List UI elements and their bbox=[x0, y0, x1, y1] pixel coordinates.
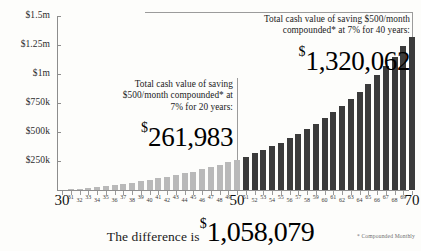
x-tick bbox=[132, 191, 133, 195]
x-tick bbox=[360, 191, 361, 195]
bar-age-58 bbox=[304, 129, 310, 190]
bar-age-48 bbox=[217, 165, 223, 190]
bar-age-46 bbox=[199, 169, 205, 190]
x-tick-label-47: 47 bbox=[208, 194, 214, 200]
difference-label: The difference is bbox=[107, 229, 200, 244]
x-tick-label-33: 33 bbox=[85, 194, 91, 200]
x-tick-label-40: 40 bbox=[147, 197, 153, 203]
bar-age-36 bbox=[112, 185, 118, 190]
bar-age-38 bbox=[129, 183, 135, 190]
bar-age-61 bbox=[330, 112, 336, 190]
bar-age-60 bbox=[322, 118, 328, 190]
callout-top-value: 1,320,062 bbox=[306, 46, 410, 76]
bar-age-49 bbox=[225, 162, 231, 190]
y-tick bbox=[57, 161, 61, 162]
y-tick-label-text: $1.25m bbox=[21, 39, 50, 49]
callout-mid-leader-vertical bbox=[237, 78, 238, 160]
x-tick-label-52: 52 bbox=[252, 197, 258, 203]
bar-age-56 bbox=[287, 138, 293, 190]
callout-mid-line1: Total cash value of saving bbox=[135, 79, 233, 89]
bar-age-55 bbox=[278, 143, 284, 190]
x-tick-label-34: 34 bbox=[94, 197, 100, 203]
y-tick-label: $1.25m bbox=[0, 39, 54, 50]
bar-age-68 bbox=[392, 57, 398, 190]
y-tick-label: $750k bbox=[0, 97, 54, 108]
bar-age-53 bbox=[260, 150, 266, 190]
x-tick-label-53: 53 bbox=[260, 194, 266, 200]
currency-symbol: $ bbox=[141, 120, 148, 135]
x-tick-label-63: 63 bbox=[348, 194, 354, 200]
bar-age-42 bbox=[164, 177, 170, 190]
bar-age-52 bbox=[252, 153, 258, 190]
x-tick-label-41: 41 bbox=[155, 194, 161, 200]
bar-age-62 bbox=[339, 106, 345, 190]
x-tick-label-38: 38 bbox=[129, 197, 135, 203]
x-tick bbox=[307, 191, 308, 195]
x-tick-label-66: 66 bbox=[374, 197, 380, 203]
x-tick bbox=[377, 191, 378, 195]
bar-age-66 bbox=[374, 75, 380, 190]
x-tick-label-35: 35 bbox=[103, 194, 109, 200]
footnote: * Compounded Monthly bbox=[357, 233, 415, 239]
x-tick-label-32: 32 bbox=[77, 197, 83, 203]
bar-age-64 bbox=[357, 92, 363, 190]
bar-age-33 bbox=[85, 188, 91, 190]
x-tick bbox=[185, 191, 186, 195]
bar-age-50 bbox=[234, 160, 240, 190]
callout-mid-value: 261,983 bbox=[148, 122, 233, 152]
bar-age-31 bbox=[68, 189, 74, 190]
bar-age-35 bbox=[103, 186, 109, 190]
y-tick bbox=[57, 103, 61, 104]
bar-age-34 bbox=[94, 187, 100, 190]
y-tick bbox=[57, 45, 61, 46]
x-tick-label-31: 31 bbox=[68, 194, 74, 200]
callout-top-leader-vertical bbox=[412, 12, 413, 37]
callout-40-years: Total cash value of saving $500/month co… bbox=[150, 14, 410, 76]
difference-amount: $1,058,079 bbox=[200, 216, 315, 247]
x-tick-label-36: 36 bbox=[112, 197, 118, 203]
bar-age-43 bbox=[173, 175, 179, 190]
y-tick bbox=[57, 74, 61, 75]
difference-row: The difference is$1,058,079 bbox=[0, 216, 421, 248]
x-tick bbox=[220, 191, 221, 195]
x-tick-label-56: 56 bbox=[287, 197, 293, 203]
currency-symbol: $ bbox=[299, 44, 306, 59]
x-tick bbox=[395, 191, 396, 195]
y-tick-label-text: $500k bbox=[26, 126, 50, 136]
x-tick-label-44: 44 bbox=[182, 197, 188, 203]
callout-top-leader-horizontal bbox=[145, 12, 412, 13]
callout-20-years: Total cash value of saving $500/month co… bbox=[62, 79, 233, 152]
x-tick-label-39: 39 bbox=[138, 194, 144, 200]
bar-age-45 bbox=[190, 172, 196, 190]
chart-canvas: $1.5m$1.25m$1m$750k$500k$250k 3031323334… bbox=[0, 0, 421, 251]
x-tick-label-51: 51 bbox=[243, 194, 249, 200]
bar-age-44 bbox=[182, 173, 188, 190]
difference-value: 1,058,079 bbox=[207, 216, 315, 247]
bar-age-47 bbox=[208, 167, 214, 190]
x-tick bbox=[97, 191, 98, 195]
callout-mid-line3: 7% for 20 years: bbox=[170, 102, 233, 112]
x-tick-label-54: 54 bbox=[269, 197, 275, 203]
x-tick-label-67: 67 bbox=[383, 194, 389, 200]
x-tick bbox=[167, 191, 168, 195]
x-tick-label-68: 68 bbox=[392, 197, 398, 203]
x-tick-label-59: 59 bbox=[313, 194, 319, 200]
x-tick-label-46: 46 bbox=[199, 197, 205, 203]
y-tick bbox=[57, 132, 61, 133]
x-tick-label-64: 64 bbox=[357, 197, 363, 203]
x-tick bbox=[272, 191, 273, 195]
x-tick bbox=[115, 191, 116, 195]
x-tick-label-65: 65 bbox=[365, 194, 371, 200]
callout-top-line1: Total cash value of saving $500/month bbox=[264, 14, 410, 24]
x-tick bbox=[150, 191, 151, 195]
x-tick-label-62: 62 bbox=[339, 197, 345, 203]
bar-age-63 bbox=[348, 99, 354, 190]
callout-top-line2: compounded* at 7% for 40 years: bbox=[283, 25, 410, 35]
x-axis-line bbox=[57, 190, 409, 191]
callout-mid-line2: $500/month compounded* at bbox=[123, 90, 233, 100]
bar-age-54 bbox=[269, 146, 275, 190]
bar-age-59 bbox=[313, 124, 319, 190]
callout-mid-amount: $261,983 bbox=[62, 113, 233, 152]
bar-age-41 bbox=[155, 178, 161, 190]
y-tick-label: $1.5m bbox=[0, 10, 54, 21]
